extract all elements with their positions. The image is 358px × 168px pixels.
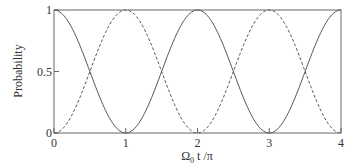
y-tick-label: 1 <box>46 3 52 17</box>
y-tick-label: 0.5 <box>37 65 52 79</box>
plot-border <box>54 10 341 133</box>
probability-chart: 00.51 01234 Probability Ω0 t /π <box>0 0 358 168</box>
x-axis-ticks: 01234 <box>51 128 344 150</box>
y-axis-label: Probability <box>11 44 25 97</box>
x-tick-label: 2 <box>195 136 201 150</box>
curves <box>54 10 341 133</box>
x-tick-label: 3 <box>266 136 272 150</box>
x-axis-label: Ω0 t /π <box>181 149 213 165</box>
x-axis-label-omega: Ω <box>181 149 190 163</box>
x-tick-label: 4 <box>338 136 344 150</box>
y-axis-ticks: 00.51 <box>37 3 59 140</box>
plot-frame <box>54 10 341 133</box>
curve-solid <box>54 10 341 133</box>
x-axis-label-rest: t /π <box>194 149 213 163</box>
curve-dashed <box>54 10 341 133</box>
x-tick-label: 1 <box>123 136 129 150</box>
x-tick-label: 0 <box>51 136 57 150</box>
